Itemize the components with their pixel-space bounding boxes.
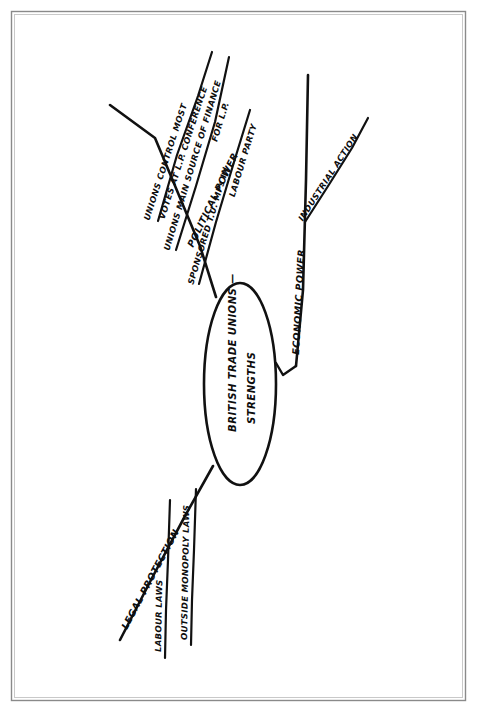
- subbranch-label-outside-monopoly-laws-group: OUTSIDE MONOPOLY LAWS: [179, 505, 191, 640]
- mindmap-canvas: BRITISH TRADE UNIONS — STRENGTHS POLITIC…: [0, 0, 484, 713]
- branch-label-legal-protection: LEGAL PROTECTION: [119, 527, 181, 631]
- subbranch-label-labour-laws: LABOUR LAWS: [153, 579, 164, 652]
- central-topic-line2: STRENGTHS: [246, 352, 257, 424]
- mindmap-drawing: BRITISH TRADE UNIONS — STRENGTHS POLITIC…: [0, 0, 484, 713]
- central-topic-oval: [204, 283, 276, 485]
- branch-label-economic-power: ECONOMIC POWER: [290, 249, 307, 355]
- central-topic-line1: BRITISH TRADE UNIONS —: [227, 273, 238, 432]
- branch-label-legal-protection-group: LEGAL PROTECTION: [119, 527, 181, 631]
- subbranch-line-labour-laws: [165, 500, 170, 658]
- central-topic-text-group: BRITISH TRADE UNIONS — STRENGTHS: [227, 273, 257, 432]
- page-frame-border: [12, 12, 466, 701]
- subbranch-label-outside-monopoly-laws: OUTSIDE MONOPOLY LAWS: [179, 505, 191, 640]
- subbranch-line-outside-monopoly-laws: [191, 489, 196, 645]
- connector-economic-power: [276, 363, 296, 375]
- subbranch-line-sponsored-mps: [199, 110, 250, 284]
- branch-label-economic-power-group: ECONOMIC POWER: [290, 249, 307, 355]
- subbranch-label-labour-laws-group: LABOUR LAWS: [153, 579, 164, 652]
- page-frame-inner-border: [15, 15, 463, 698]
